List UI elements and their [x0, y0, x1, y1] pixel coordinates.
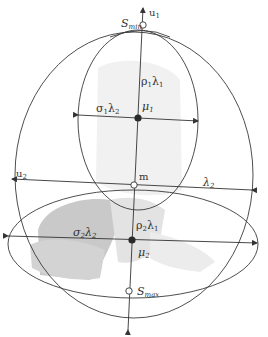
- mu1-point: [134, 114, 141, 121]
- m-label: m: [139, 171, 149, 182]
- m-point: [131, 182, 137, 188]
- pca-ellipse-diagram: Smin u1 ρ1λ1 σ1λ2 μ1 u2 m λ2 ρ2λ1 σ2λ2 μ…: [0, 0, 268, 337]
- s-max-point: [126, 288, 132, 294]
- s-max-label: Smax: [137, 285, 159, 299]
- s-min-label: Smin: [121, 17, 142, 31]
- lambda2-label: λ2: [202, 176, 215, 190]
- u1-label: u1: [149, 7, 160, 20]
- mu2-point: [128, 236, 135, 243]
